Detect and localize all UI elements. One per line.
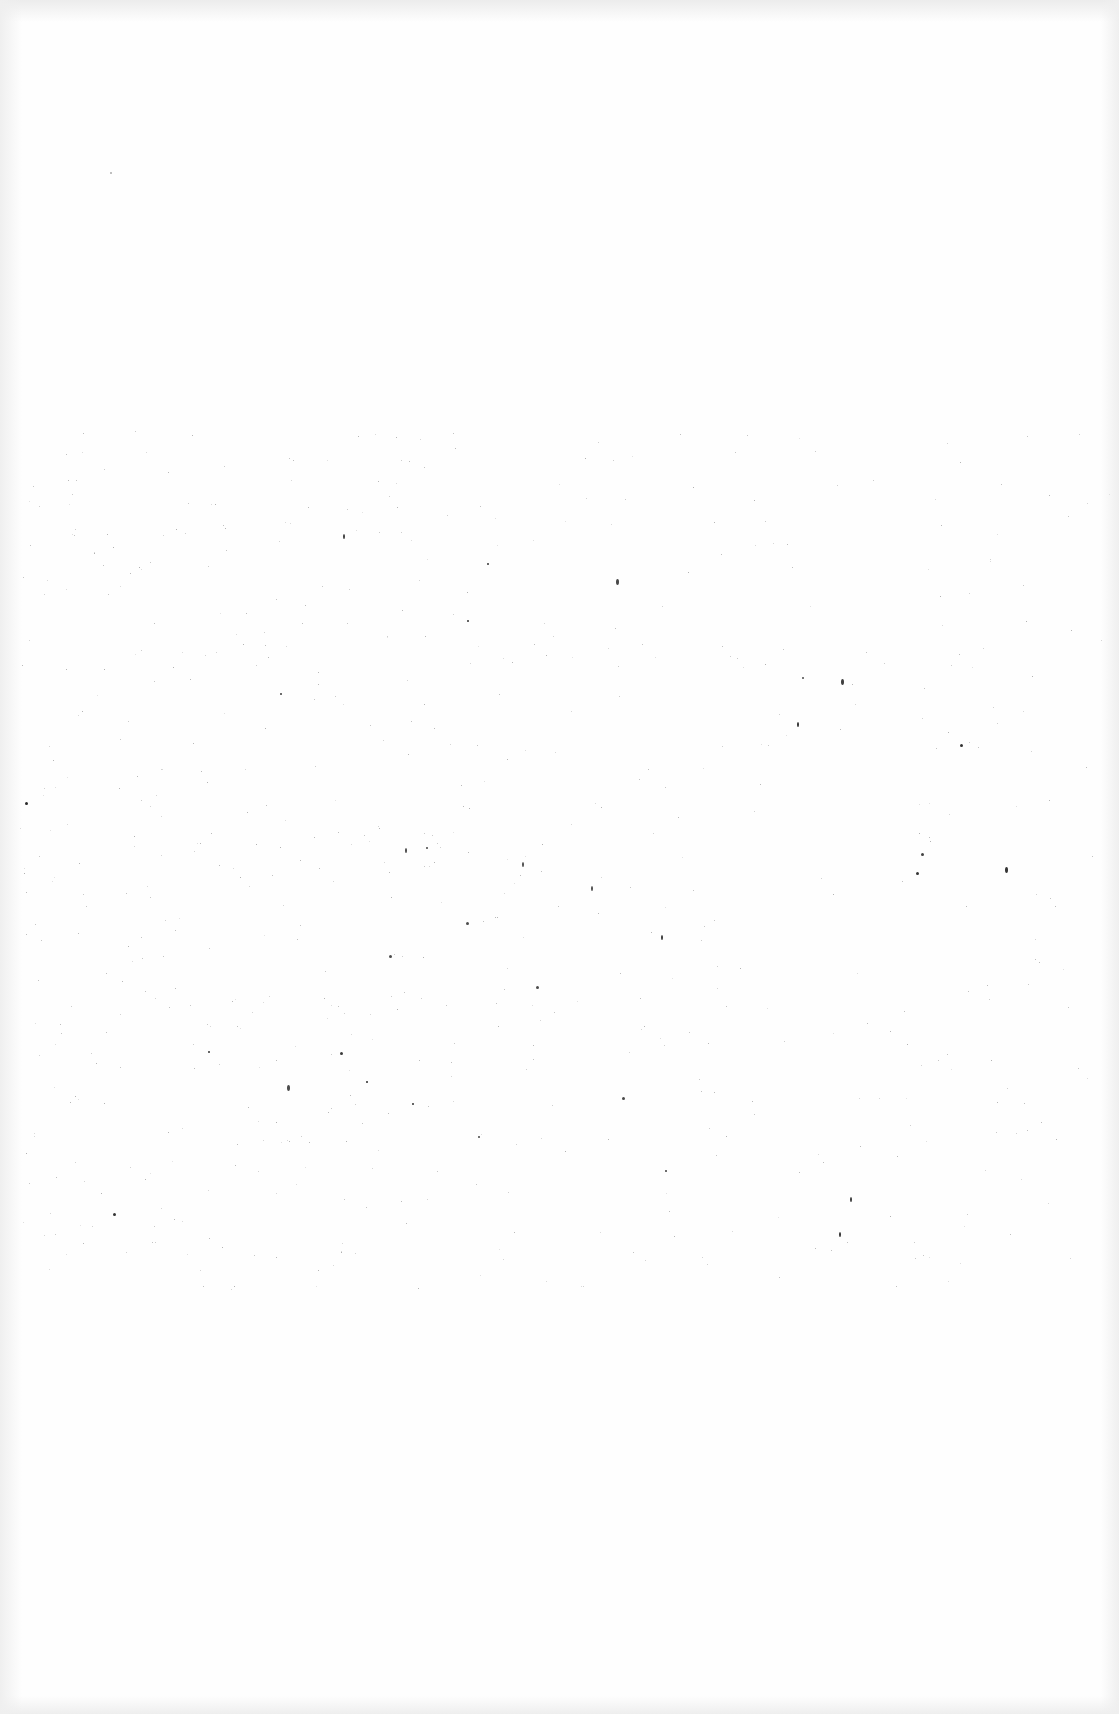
speck [405,848,407,853]
speck [910,1125,911,1126]
speck [598,442,599,443]
scanner-noise-speckles [20,430,1110,1290]
speck [424,866,425,867]
speck [619,696,620,697]
speck [468,852,469,853]
speck [1027,436,1028,437]
speck [717,988,718,989]
speck [224,713,225,714]
speck [967,1214,968,1215]
speck [209,1238,210,1239]
speck [318,672,319,673]
speck [233,868,234,869]
speck [142,958,143,959]
speck [585,458,586,459]
speck [276,599,277,600]
speck [290,523,291,524]
speck [305,1167,306,1168]
speck [674,1236,675,1237]
speck [61,1033,62,1034]
speck [424,467,425,468]
speck [997,1102,998,1103]
speck [141,800,142,801]
speck [300,860,301,861]
speck [349,589,350,590]
speck [990,561,991,562]
speck [428,1106,429,1107]
speck [344,1013,345,1014]
speck [1035,939,1036,940]
speck [833,1033,834,1034]
speck [39,1055,40,1056]
speck [265,728,266,729]
speck [375,434,376,435]
speck [583,1286,584,1287]
speck [146,452,147,453]
speck [66,1254,67,1255]
speck [640,998,641,999]
speck [366,1207,367,1208]
speck [356,530,357,531]
speck [714,1092,715,1093]
speck [25,802,28,805]
speck [669,1211,670,1212]
speck [1001,484,1002,485]
speck [34,1136,35,1137]
speck [231,1289,232,1290]
speck [240,1028,241,1029]
speck [200,843,201,844]
speck [408,754,409,755]
speck [595,803,596,804]
speck [615,628,616,629]
speck [755,545,756,546]
speck [210,1026,211,1027]
speck [182,652,183,653]
speck [571,711,572,712]
speck [165,920,166,921]
speck [335,800,336,801]
speck [707,1264,708,1265]
speck [525,750,526,751]
speck [287,1140,288,1141]
speck [176,529,177,530]
speck [67,824,68,825]
speck [355,1104,356,1105]
speck [342,1243,343,1244]
speck [120,739,121,740]
speck [470,663,471,664]
speck [951,665,952,666]
speck [366,1081,368,1083]
speck [558,906,559,907]
speck [79,863,80,864]
speck [258,1121,259,1122]
speck [722,746,723,747]
speck [629,1052,630,1053]
speck [916,872,919,875]
speck [507,759,508,760]
speck [666,1193,667,1194]
speck [296,1184,297,1185]
speck [264,935,265,936]
speck [601,807,602,808]
speck [540,1020,541,1021]
speck [276,1122,277,1123]
speck [119,788,120,789]
speck [709,1128,710,1129]
speck [190,679,191,680]
speck [338,1006,339,1007]
speck [455,448,456,449]
speck [70,1102,71,1103]
speck [378,481,379,482]
speck [237,1026,238,1027]
speck [300,925,301,926]
speck [929,837,930,838]
speck [168,472,169,473]
speck [926,1141,927,1142]
speck [867,1023,868,1024]
speck [379,828,380,829]
speck [389,872,390,873]
speck [263,1002,264,1003]
speck [929,803,930,804]
speck [924,688,925,689]
speck [154,1226,155,1227]
